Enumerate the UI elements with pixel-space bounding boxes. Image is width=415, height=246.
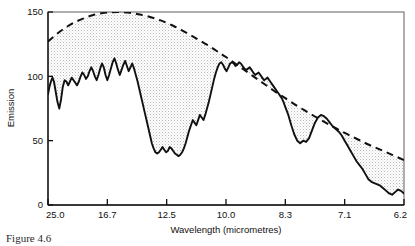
x-axis-tick-labels: 25.016.712.510.08.37.16.2 — [46, 209, 407, 220]
x-axis-title: Wavelength (micrometres) — [170, 224, 281, 235]
y-tick-label-50: 50 — [32, 135, 43, 146]
x-tick-label-8.3: 8.3 — [279, 209, 292, 220]
y-tick-label-100: 100 — [27, 71, 43, 82]
x-tick-label-7.1: 7.1 — [338, 209, 351, 220]
x-tick-label-10.0: 10.0 — [217, 209, 236, 220]
x-tick-label-6.2: 6.2 — [394, 209, 407, 220]
x-tick-label-12.5: 12.5 — [157, 209, 176, 220]
y-tick-label-0: 0 — [38, 199, 43, 210]
y-axis-title: Emission — [5, 89, 16, 128]
x-tick-label-25.0: 25.0 — [46, 209, 65, 220]
y-tick-label-150: 150 — [27, 6, 43, 17]
x-tick-label-16.7: 16.7 — [98, 209, 117, 220]
y-axis-tick-labels: 050100150 — [27, 6, 43, 210]
